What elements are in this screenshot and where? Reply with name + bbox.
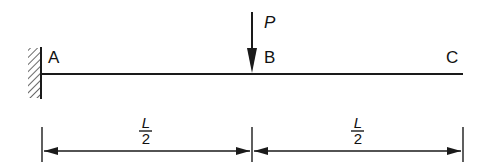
dimension-arrow-right-icon bbox=[236, 147, 250, 155]
dimension-ticks bbox=[42, 127, 463, 162]
arrow-head-icon bbox=[247, 48, 257, 73]
dimension-ab: L 2 bbox=[44, 114, 250, 155]
dimension-bc-denominator: 2 bbox=[354, 130, 362, 147]
point-label-a: A bbox=[48, 48, 60, 67]
dimension-bc: L 2 bbox=[254, 114, 461, 155]
dimension-bc-numerator: L bbox=[354, 114, 362, 131]
dimension-arrow-left-icon bbox=[254, 147, 268, 155]
point-load-arrow bbox=[247, 12, 257, 73]
dimension-ab-numerator: L bbox=[142, 114, 150, 131]
fixed-wall-support bbox=[28, 47, 41, 99]
point-label-c: C bbox=[446, 48, 458, 67]
point-label-b: B bbox=[264, 48, 275, 67]
dimension-ab-denominator: 2 bbox=[142, 130, 150, 147]
load-label-p: P bbox=[264, 13, 276, 32]
dimension-arrow-right-icon bbox=[447, 147, 461, 155]
beam-diagram: P A B C L 2 L 2 bbox=[0, 0, 483, 168]
wall-hatching bbox=[28, 48, 41, 98]
dimension-arrow-left-icon bbox=[44, 147, 58, 155]
